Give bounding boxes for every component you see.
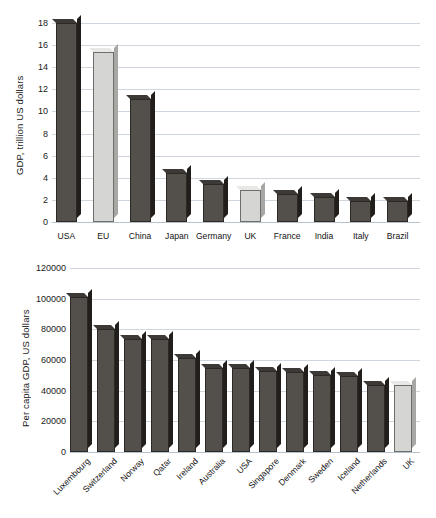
plot-area-bottom: 020000400006000080000100000120000Luxembo… xyxy=(0,258,436,518)
bar-front-face xyxy=(93,52,114,222)
y-axis-tick-label: 0 xyxy=(43,217,48,227)
y-axis-tick-label: 120000 xyxy=(36,263,66,273)
bar-side-face xyxy=(77,15,81,218)
bar-side-face xyxy=(224,176,228,218)
bar-eu[interactable] xyxy=(93,52,114,222)
bar-italy[interactable] xyxy=(350,201,371,222)
y-axis-tick-label: 40000 xyxy=(41,386,66,396)
bar-front-face xyxy=(240,190,261,222)
bar-front-face xyxy=(367,385,385,452)
gridline xyxy=(70,268,420,269)
bar-side-face xyxy=(335,189,339,218)
bar-front-face xyxy=(394,385,412,452)
bar-side-face xyxy=(261,182,265,218)
bar-netherlands[interactable] xyxy=(367,385,385,452)
bar-germany[interactable] xyxy=(203,184,224,222)
y-axis-tick-label: 0 xyxy=(61,447,66,457)
bar-front-face xyxy=(97,329,115,452)
bar-ireland[interactable] xyxy=(178,358,196,452)
y-axis-tick-label: 6 xyxy=(43,151,48,161)
y-axis-tick-label: 12 xyxy=(38,84,48,94)
y-axis-tick-label: 10 xyxy=(38,106,48,116)
bar-side-face xyxy=(385,377,389,448)
bar-side-face xyxy=(114,44,118,218)
bar-side-face xyxy=(408,193,412,218)
bar-norway[interactable] xyxy=(124,339,142,452)
bar-side-face xyxy=(142,331,146,448)
bar-india[interactable] xyxy=(314,197,335,222)
bar-france[interactable] xyxy=(277,194,298,222)
x-axis-label-luxembourg: Luxembourg xyxy=(1,456,93,518)
gridline xyxy=(70,329,420,330)
bar-brazil[interactable] xyxy=(387,201,408,222)
bar-front-face xyxy=(178,358,196,452)
y-axis-tick-label: 80000 xyxy=(41,324,66,334)
bar-qatar[interactable] xyxy=(151,339,169,452)
bar-front-face xyxy=(286,372,304,452)
bar-front-face xyxy=(166,173,187,222)
bar-front-face xyxy=(259,371,277,452)
bar-front-face xyxy=(387,201,408,222)
bar-front-face xyxy=(314,197,335,222)
bar-front-face xyxy=(124,339,142,452)
bar-front-face xyxy=(203,184,224,222)
bar-iceland[interactable] xyxy=(340,376,358,452)
y-axis-tick-label: 16 xyxy=(38,40,48,50)
y-axis-tick-label: 8 xyxy=(43,129,48,139)
bar-front-face xyxy=(340,376,358,452)
bar-japan[interactable] xyxy=(166,173,187,222)
bar-front-face xyxy=(56,23,77,222)
gdp-percapita-chart: Per capita GDP, US dollars 0200004000060… xyxy=(0,258,436,518)
y-axis-tick-label: 100000 xyxy=(36,294,66,304)
y-axis-tick-label: 60000 xyxy=(41,355,66,365)
bar-front-face xyxy=(313,375,331,452)
bar-side-face xyxy=(331,367,335,448)
y-axis-tick-label: 18 xyxy=(38,18,48,28)
gridline xyxy=(52,222,420,223)
bar-front-face xyxy=(205,368,223,452)
bar-front-face xyxy=(130,99,151,222)
bar-usa[interactable] xyxy=(56,23,77,222)
bar-side-face xyxy=(304,364,308,448)
bar-side-face xyxy=(250,360,254,448)
bar-singapore[interactable] xyxy=(259,371,277,452)
bar-uk[interactable] xyxy=(240,190,261,222)
bar-side-face xyxy=(277,363,281,448)
bar-front-face xyxy=(151,339,169,452)
bar-side-face xyxy=(358,368,362,448)
bar-side-face xyxy=(151,91,155,218)
bar-australia[interactable] xyxy=(205,368,223,452)
bar-side-face xyxy=(196,350,200,448)
bar-front-face xyxy=(277,194,298,222)
bar-switzerland[interactable] xyxy=(97,329,115,452)
bar-usa[interactable] xyxy=(232,368,250,452)
bar-side-face xyxy=(115,321,119,448)
bar-side-face xyxy=(412,377,416,448)
bar-china[interactable] xyxy=(130,99,151,222)
gridline xyxy=(70,360,420,361)
y-axis-tick-label: 2 xyxy=(43,195,48,205)
plot-area-top: 024681012141618USAEUChinaJapanGermanyUKF… xyxy=(0,0,436,258)
bar-side-face xyxy=(298,186,302,218)
bar-side-face xyxy=(169,331,173,448)
bar-sweden[interactable] xyxy=(313,375,331,452)
gridline xyxy=(70,299,420,300)
y-axis-tick-label: 20000 xyxy=(41,416,66,426)
x-axis-label-brazil: Brazil xyxy=(358,231,436,241)
bar-front-face xyxy=(350,201,371,222)
y-axis-tick-label: 4 xyxy=(43,173,48,183)
gdp-total-chart: GDP, trillion US dollars 024681012141618… xyxy=(0,0,436,258)
bar-luxembourg[interactable] xyxy=(70,297,88,452)
bar-uk[interactable] xyxy=(394,385,412,452)
bar-front-face xyxy=(232,368,250,452)
bar-side-face xyxy=(187,165,191,218)
gridline xyxy=(52,23,420,24)
gridline xyxy=(70,452,420,453)
bar-front-face xyxy=(70,297,88,452)
bar-side-face xyxy=(223,360,227,448)
bar-side-face xyxy=(88,289,92,448)
gridline xyxy=(52,45,420,46)
y-axis-tick-label: 14 xyxy=(38,62,48,72)
bar-denmark[interactable] xyxy=(286,372,304,452)
bar-side-face xyxy=(371,193,375,218)
